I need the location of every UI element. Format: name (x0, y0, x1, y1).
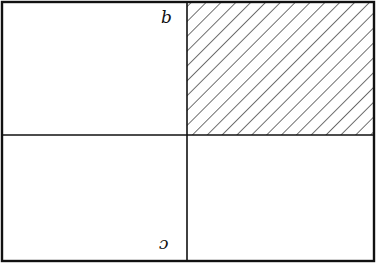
label-b: b (161, 9, 172, 26)
label-c: c (159, 237, 169, 254)
shaded-quadrant-top-right (187, 2, 374, 135)
partition-diagram (0, 0, 380, 268)
